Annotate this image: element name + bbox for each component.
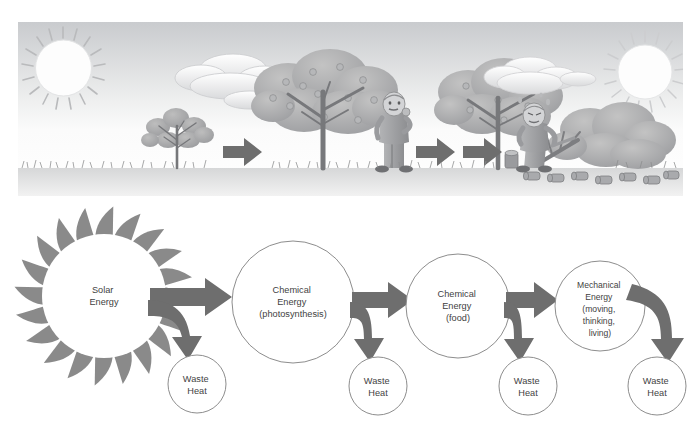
node-chemical-energy-food[interactable]: Chemical Energy (food) (406, 254, 510, 358)
arrow-chemical-to-waste (350, 302, 384, 362)
node-waste-heat-4[interactable]: Waste Heat (628, 357, 686, 415)
page-root: Solar Energy Chemical Energy (photosynth… (0, 0, 697, 426)
node-mechanical-energy[interactable]: Mechanical Energy (moving, thinking, liv… (555, 261, 645, 351)
energy-flow-diagram: Solar Energy Chemical Energy (photosynth… (0, 196, 697, 426)
sun-ray (15, 287, 47, 305)
energy-flow-illustration-strip (18, 22, 683, 196)
sun-ray (95, 207, 113, 239)
arrow-food-to-waste (504, 302, 534, 362)
node-waste-heat-1[interactable]: Waste Heat (168, 355, 226, 413)
sun-ray (95, 353, 113, 385)
node-waste-heat-3[interactable]: Waste Heat (499, 357, 557, 415)
node-chemical-energy-photosynthesis[interactable]: Chemical Energy (photosynthesis) (232, 241, 354, 363)
node-waste-heat-2[interactable]: Waste Heat (349, 357, 407, 415)
